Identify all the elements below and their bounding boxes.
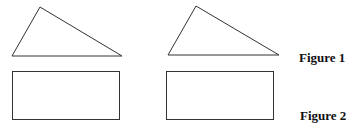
right-triangle	[168, 6, 279, 55]
figure-1-label: Figure 1	[299, 50, 345, 66]
left-rectangle	[13, 72, 120, 120]
left-triangle	[12, 7, 122, 56]
right-rectangle	[167, 72, 274, 120]
figure-2-label: Figure 2	[300, 108, 346, 124]
